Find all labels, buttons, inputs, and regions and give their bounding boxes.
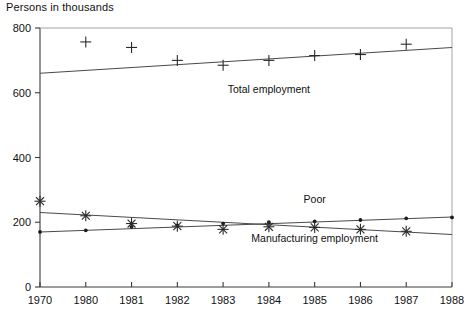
trend-line: [40, 217, 452, 232]
y-tick-label: 800: [13, 22, 31, 34]
plot-frame: [40, 28, 452, 287]
trend-line: [40, 47, 452, 73]
data-point-star: [80, 210, 91, 221]
x-tick-label: 1988: [440, 294, 464, 306]
data-point-dot: [84, 228, 88, 232]
data-point-star: [35, 196, 46, 207]
x-tick-label: 1980: [74, 294, 98, 306]
data-point-star: [263, 221, 274, 232]
series-fit-lines: [40, 47, 452, 234]
data-point-plus: [126, 42, 137, 53]
data-point-plus: [355, 49, 366, 60]
series-annotation-label: Total employment: [228, 83, 310, 95]
y-tick-label: 600: [13, 87, 31, 99]
data-point-plus: [263, 55, 274, 66]
axis-ticks: [35, 28, 452, 287]
data-point-plus: [80, 36, 91, 47]
x-axis-tick-labels: 1970198019811982198319841985198619871988: [28, 294, 464, 306]
x-tick-label: 1985: [302, 294, 326, 306]
y-tick-label: 200: [13, 216, 31, 228]
x-tick-label: 1984: [257, 294, 281, 306]
y-axis-tick-labels: 0200400600800: [13, 22, 31, 293]
data-point-star: [172, 221, 183, 232]
data-point-dot: [450, 215, 454, 219]
x-tick-label: 1986: [348, 294, 372, 306]
data-point-plus: [401, 39, 412, 50]
series-annotations: Total employmentPoorManufacturing employ…: [228, 83, 378, 244]
x-tick-label: 1987: [394, 294, 418, 306]
trend-line: [40, 213, 452, 235]
series-annotation-label: Manufacturing employment: [251, 232, 378, 244]
x-tick-label: 1982: [165, 294, 189, 306]
data-point-dot: [38, 230, 42, 234]
data-point-star: [401, 226, 412, 237]
chart-container: Persons in thousands 0200400600800 19701…: [0, 0, 469, 315]
data-point-plus: [309, 50, 320, 61]
data-point-star: [126, 218, 137, 229]
y-tick-label: 0: [25, 281, 31, 293]
y-tick-label: 400: [13, 152, 31, 164]
data-point-dot: [359, 218, 363, 222]
data-point-star: [218, 224, 229, 235]
x-tick-label: 1983: [211, 294, 235, 306]
series-annotation-label: Poor: [304, 193, 327, 205]
x-tick-label: 1970: [28, 294, 52, 306]
x-tick-label: 1981: [119, 294, 143, 306]
chart-plot-area: 0200400600800 19701980198119821983198419…: [0, 0, 469, 315]
series-markers: [35, 36, 454, 236]
data-point-dot: [404, 216, 408, 220]
